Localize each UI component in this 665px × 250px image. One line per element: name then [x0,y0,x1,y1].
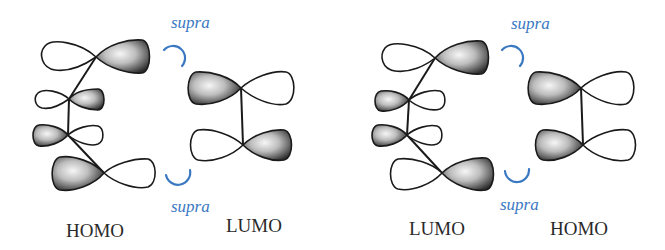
diene-orbital-c4 [52,157,155,191]
orbital-diagram: supra supra HOMO LUMO supra supra LUMO H… [0,0,665,250]
supra-arc-bottom-icon [166,170,190,185]
dienophile-bond-right [581,88,583,145]
dienophile-orbital-c2-right [536,130,636,161]
diene-label-left: HOMO [66,221,124,240]
supra-label-top-right: supra [511,15,550,32]
diene-orbital-c2-right [375,90,445,111]
diene-bonds-right [407,58,442,173]
diene-orbital-c4-right [391,158,494,190]
diene-label-right: LUMO [409,219,465,238]
supra-label-bottom-right: supra [500,196,539,213]
right-panel [372,41,636,190]
diene-orbital-c1 [42,40,150,73]
supra-arc-top-icon [164,46,185,66]
diene-bonds [68,57,104,173]
dienophile-label-right: HOMO [550,219,608,238]
orbital-diagram-svg [0,0,665,250]
dienophile-orbital-c2 [191,130,292,161]
supra-arc-bottom-right-icon [505,169,529,182]
supra-label-bottom-left: supra [171,198,210,215]
supra-label-top-left: supra [171,14,210,31]
dienophile-bond [241,88,243,145]
diene-orbital-c1-right [382,41,488,74]
dienophile-label-left: LUMO [226,216,282,235]
left-panel [33,40,294,190]
supra-arc-top-right-icon [502,46,523,66]
